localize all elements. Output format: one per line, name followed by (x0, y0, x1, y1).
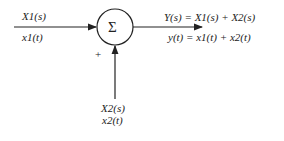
input2-time-label: x2(t) (102, 115, 123, 126)
sigma-symbol: Σ (108, 20, 117, 35)
output-time-label: y(t) = x1(t) + x2(t) (168, 32, 251, 43)
output-laplace-label: Y(s) = X1(s) + X2(s) (164, 12, 255, 23)
input1-laplace-label: X1(s) (22, 11, 46, 22)
plus-sign: + (95, 49, 101, 60)
input1-time-label: x1(t) (22, 32, 43, 43)
input2-laplace-label: X2(s) (101, 103, 125, 114)
